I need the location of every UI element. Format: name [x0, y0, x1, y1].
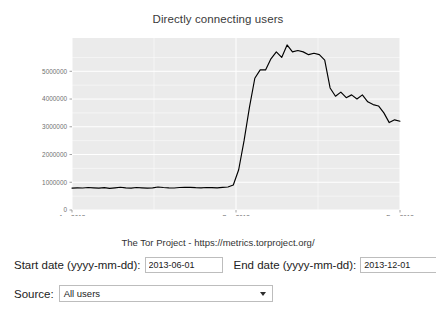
- y-tick-label: 3000000: [42, 123, 67, 130]
- start-date-label: Start date (yyyy-mm-dd):: [14, 259, 141, 271]
- chevron-down-icon: [260, 292, 266, 296]
- chart-caption: The Tor Project - https://metrics.torpro…: [0, 237, 436, 248]
- line-chart-svg: 010000002000000300000040000005000000 Jun…: [0, 36, 436, 216]
- x-axis-labels: Jun-2013Sep-2013Dec-2013: [59, 214, 415, 216]
- chart-title: Directly connecting users: [0, 13, 436, 25]
- y-axis-labels: 010000002000000300000040000005000000: [42, 68, 67, 214]
- controls-form: Start date (yyyy-mm-dd): End date (yyyy-…: [0, 253, 436, 323]
- y-tick-label: 0: [63, 206, 67, 213]
- source-select[interactable]: All users: [59, 285, 273, 302]
- y-tick-label: 1000000: [42, 179, 67, 186]
- x-tick-label: Sep-2013: [222, 214, 250, 216]
- y-tick-label: 2000000: [42, 151, 67, 158]
- end-date-input[interactable]: [360, 257, 436, 273]
- end-date-group: End date (yyyy-mm-dd):: [234, 257, 436, 273]
- start-date-input[interactable]: [145, 257, 223, 273]
- source-row: Source: All users: [14, 285, 273, 302]
- x-tick-label: Dec-2013: [386, 214, 414, 216]
- source-select-value: All users: [60, 288, 100, 299]
- y-tick-label: 5000000: [42, 68, 67, 75]
- date-range-row: Start date (yyyy-mm-dd): End date (yyyy-…: [14, 257, 436, 273]
- source-label: Source:: [14, 288, 54, 300]
- chart-panel: Directly connecting users 01000000200000…: [0, 0, 436, 252]
- end-date-label: End date (yyyy-mm-dd):: [234, 259, 357, 271]
- y-tick-label: 4000000: [42, 95, 67, 102]
- plot-area: 010000002000000300000040000005000000 Jun…: [0, 36, 436, 216]
- x-tick-label: Jun-2013: [59, 214, 86, 216]
